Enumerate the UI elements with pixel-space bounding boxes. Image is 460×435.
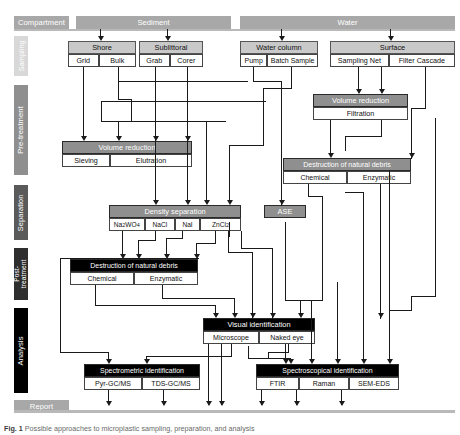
box-methods-spectrometric-identification: Pyr-GC/MSTDS-GC/MS bbox=[84, 377, 200, 390]
method-naked-eye[interactable]: Naked eye bbox=[259, 331, 315, 344]
connector-h bbox=[253, 81, 282, 82]
arrowhead bbox=[116, 136, 122, 141]
method-elutration[interactable]: Elutration bbox=[110, 154, 192, 167]
method-sampling-net[interactable]: Sampling Net bbox=[330, 54, 389, 67]
method-chemical[interactable]: Chemical bbox=[70, 272, 134, 285]
connector-v bbox=[263, 88, 264, 146]
connector-v bbox=[345, 136, 346, 151]
connector-h bbox=[345, 192, 364, 193]
connector-h bbox=[411, 296, 436, 297]
connector-v bbox=[208, 344, 209, 403]
method-enzymatic[interactable]: Enzymatic bbox=[134, 272, 198, 285]
stage-label-separation: Separation bbox=[14, 185, 28, 240]
method-filtration[interactable]: Filtration bbox=[313, 107, 408, 120]
box-methods-density-separation: Na2WO4NaClNaIZnCl2 bbox=[109, 218, 241, 231]
box-surface: SurfaceSampling NetFilter Cascade bbox=[330, 41, 455, 67]
box-methods-destruction-natural-debris-post: ChemicalEnzymatic bbox=[70, 272, 198, 285]
method-grab[interactable]: Grab bbox=[139, 54, 170, 67]
box-title-destruction-natural-debris-pre: Destruction of natural debris bbox=[283, 158, 411, 171]
connector-v bbox=[95, 285, 96, 306]
method-chemical[interactable]: Chemical bbox=[283, 171, 347, 184]
connector-h bbox=[241, 248, 273, 249]
connector-v bbox=[118, 67, 119, 100]
connector-h bbox=[411, 108, 426, 109]
arrowhead bbox=[409, 153, 415, 158]
method-nai[interactable]: NaI bbox=[175, 218, 200, 231]
method-na2wo4[interactable]: Na2WO4 bbox=[109, 218, 145, 231]
box-water-column: Water columnPumpBatch Sample bbox=[240, 41, 318, 67]
box-title-density-separation: Density separation bbox=[109, 205, 241, 218]
stage-label-text: Pre-treatment bbox=[17, 106, 25, 154]
method-raman[interactable]: Raman bbox=[299, 377, 349, 390]
arrowhead bbox=[232, 313, 238, 318]
connector-v bbox=[389, 310, 390, 361]
method-pump[interactable]: Pump bbox=[240, 54, 267, 67]
figure-caption: Fig. 1 Possible approaches to microplast… bbox=[4, 424, 456, 433]
method-microscope[interactable]: Microscope bbox=[203, 331, 259, 344]
box-methods-destruction-natural-debris-pre: ChemicalEnzymatic bbox=[283, 171, 411, 184]
arrowhead bbox=[279, 200, 285, 205]
box-volume-reduction-sediment: Volume reductionSievingElutration bbox=[62, 141, 192, 167]
method-zncl2[interactable]: ZnCl2 bbox=[200, 218, 241, 231]
connector-v bbox=[241, 231, 242, 249]
arrowhead bbox=[378, 313, 384, 318]
box-methods-visual-identification: MicroscopeNaked eye bbox=[203, 331, 315, 344]
connector-h bbox=[162, 298, 235, 299]
connector-v bbox=[285, 222, 286, 301]
method-ftir[interactable]: FTIR bbox=[256, 377, 299, 390]
method-nacl[interactable]: NaCl bbox=[145, 218, 175, 231]
box-title-surface: Surface bbox=[330, 41, 455, 54]
connector-v bbox=[272, 248, 273, 319]
connector-h bbox=[166, 238, 183, 239]
connector-h bbox=[95, 305, 216, 306]
connector-v bbox=[381, 67, 382, 91]
connector-v bbox=[221, 344, 222, 403]
connector-v bbox=[187, 121, 188, 202]
arrowhead bbox=[388, 36, 394, 41]
box-spectroscopical-identification: Spectroscopical identificationFTIRRamanS… bbox=[256, 364, 399, 390]
connector-v bbox=[281, 81, 282, 206]
box-spectrometric-identification: Spectrometric identificationPyr-GC/MSTDS… bbox=[84, 364, 200, 390]
arrowhead bbox=[356, 89, 362, 94]
arrowhead bbox=[335, 359, 341, 364]
box-destruction-natural-debris-post: Destruction of natural debrisChemicalEnz… bbox=[70, 259, 198, 285]
connector-h bbox=[389, 310, 412, 311]
box-title-shore: Shore bbox=[68, 41, 136, 54]
method-pyr-gc-ms[interactable]: Pyr-GC/MS bbox=[84, 377, 142, 390]
connector-v bbox=[411, 108, 412, 159]
connector-h bbox=[60, 352, 109, 353]
method-bulk[interactable]: Bulk bbox=[99, 54, 136, 67]
arrowhead bbox=[379, 89, 385, 94]
method-enzymatic[interactable]: Enzymatic bbox=[347, 171, 411, 184]
method-filter-cascade[interactable]: Filter Cascade bbox=[389, 54, 455, 67]
arrowhead bbox=[227, 200, 233, 205]
box-title-destruction-natural-debris-post: Destruction of natural debris bbox=[70, 259, 198, 272]
connector-h bbox=[60, 258, 199, 259]
method-sem-eds[interactable]: SEM-EDS bbox=[349, 377, 399, 390]
connector-v bbox=[252, 252, 253, 319]
connector-h bbox=[263, 88, 292, 89]
method-tds-gc-ms[interactable]: TDS-GC/MS bbox=[142, 377, 200, 390]
box-methods-volume-reduction-water: Filtration bbox=[313, 107, 408, 120]
compartment-label: Water bbox=[338, 18, 358, 27]
box-title-water-column: Water column bbox=[240, 41, 318, 54]
arrowhead bbox=[250, 313, 256, 318]
method-sieving[interactable]: Sieving bbox=[62, 154, 110, 167]
compartment-label: Sediment bbox=[137, 18, 169, 27]
stage-label-posttreatment: Post-treatment bbox=[14, 248, 28, 300]
method-batch-sample[interactable]: Batch Sample bbox=[267, 54, 318, 67]
box-methods-shore: GridBulk bbox=[68, 54, 136, 67]
connector-v bbox=[381, 120, 382, 137]
method-grid[interactable]: Grid bbox=[68, 54, 99, 67]
connector-v bbox=[229, 222, 230, 237]
figure-caption-text: Possible approaches to microplastic samp… bbox=[25, 424, 255, 433]
compartment-bar-sediment: Sediment bbox=[76, 16, 231, 29]
report-baseline bbox=[14, 410, 455, 413]
connector-v bbox=[155, 121, 156, 202]
connector-v bbox=[337, 282, 338, 361]
arrowhead bbox=[213, 313, 219, 318]
connector-v bbox=[155, 81, 156, 122]
method-corer[interactable]: Corer bbox=[170, 54, 203, 67]
stage-label-text: Analysis bbox=[17, 336, 25, 365]
connector-v bbox=[291, 67, 292, 89]
